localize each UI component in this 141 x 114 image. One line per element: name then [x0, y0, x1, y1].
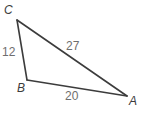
edge-c-to-a: [17, 20, 127, 96]
edge-c-to-b: [17, 20, 27, 80]
vertex-label-c: C: [4, 4, 13, 16]
side-length-label-cb: 12: [2, 46, 15, 58]
side-length-label-ca: 27: [66, 40, 79, 52]
vertex-label-a: A: [129, 95, 137, 107]
side-length-label-ba: 20: [65, 90, 78, 102]
triangle-figure: C B A 12 27 20: [0, 0, 141, 114]
vertex-label-b: B: [17, 82, 25, 94]
